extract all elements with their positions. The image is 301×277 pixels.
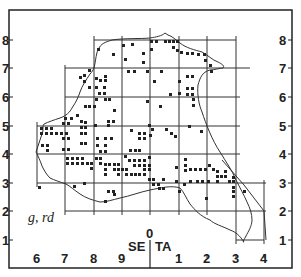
- svg-text:4: 4: [279, 147, 287, 162]
- svg-text:5: 5: [279, 119, 286, 134]
- svg-text:3: 3: [279, 176, 286, 191]
- peninsula-line: [222, 160, 266, 240]
- zone-center-label: 0: [146, 226, 153, 241]
- y-labels-right: 8 7 6 5 4 3 2 1: [279, 33, 287, 248]
- svg-text:9: 9: [118, 251, 125, 266]
- svg-text:3: 3: [232, 251, 239, 266]
- corner-label: g, rd: [28, 210, 55, 225]
- zone-right-label: TA: [155, 239, 172, 254]
- svg-text:2: 2: [279, 204, 286, 219]
- svg-text:4: 4: [260, 251, 268, 266]
- x-axis: [179, 254, 264, 258]
- svg-text:2: 2: [203, 251, 210, 266]
- distribution-map: 8 7 6 5 4 3 2 1 8 7 6 5 4 3 2 1 6 7 8 9 …: [0, 0, 301, 277]
- svg-text:5: 5: [2, 119, 9, 134]
- svg-text:1: 1: [2, 233, 9, 248]
- svg-text:6: 6: [33, 251, 40, 266]
- svg-text:1: 1: [175, 251, 182, 266]
- svg-text:8: 8: [2, 33, 9, 48]
- svg-text:8: 8: [90, 251, 97, 266]
- svg-text:3: 3: [2, 176, 9, 191]
- svg-text:4: 4: [2, 147, 10, 162]
- occurrence-dots: [38, 40, 246, 203]
- svg-text:7: 7: [61, 251, 68, 266]
- zone-left-label: SE: [128, 239, 146, 254]
- svg-text:8: 8: [279, 33, 286, 48]
- svg-text:1: 1: [279, 233, 286, 248]
- svg-text:6: 6: [2, 90, 9, 105]
- svg-text:6: 6: [279, 90, 286, 105]
- svg-text:7: 7: [2, 61, 9, 76]
- svg-text:2: 2: [2, 204, 9, 219]
- svg-text:7: 7: [279, 61, 286, 76]
